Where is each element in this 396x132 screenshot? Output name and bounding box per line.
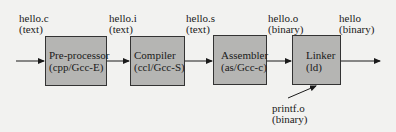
label-hello-o: hello.o (binary) <box>268 13 303 35</box>
label-hello: hello (binary) <box>339 13 374 35</box>
label-hello-s: hello.s (text) <box>186 13 215 35</box>
stage-preprocessor: Pre-processor (cpp/Gcc-E) <box>45 36 107 86</box>
arrow-printf-to-linker <box>288 86 316 98</box>
label-hello-i: hello.i (text) <box>109 13 137 35</box>
label-printf-o: printf.o (binary) <box>272 103 307 125</box>
stage-compiler: Compiler (ccl/Gcc-S) <box>130 36 185 86</box>
stage-linker: Linker (ld) <box>292 35 341 85</box>
label-hello-c: hello.c (text) <box>19 13 49 35</box>
stage-assembler: Assembler (as/Gcc-c) <box>213 35 267 85</box>
